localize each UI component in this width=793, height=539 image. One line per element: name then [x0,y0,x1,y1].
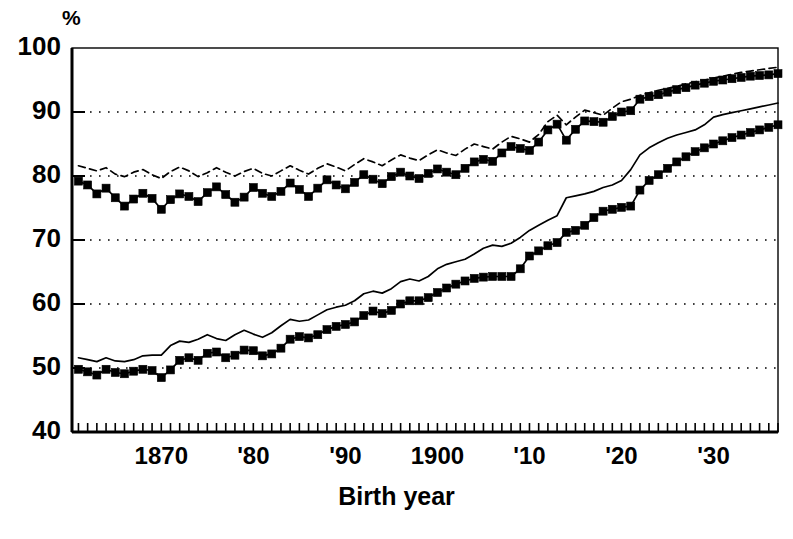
series-upper-squares [74,70,782,214]
x-tick-label-1930: '30 [697,444,729,468]
y-tick-label-40: 40 [0,417,61,443]
x-tick-label-1920: '20 [605,444,637,468]
x-tick-label-1900: 1900 [411,444,464,468]
x-tick-label-1910: '10 [513,444,545,468]
y-tick-label-80: 80 [0,161,61,187]
gridlines-group [72,112,778,368]
chart-figure: % 405060708090100 1870'80'901900'10'20'3… [0,0,793,539]
chart-plot-area [0,0,793,539]
x-tick-label-1870: 1870 [135,444,188,468]
y-tick-label-50: 50 [0,353,61,379]
y-tick-label-100: 100 [0,33,61,59]
series-lower-solid [78,103,778,362]
y-tick-label-90: 90 [0,97,61,123]
y-tick-label-60: 60 [0,289,61,315]
x-tick-label-1880: '80 [237,444,269,468]
x-tick-label-1890: '90 [329,444,361,468]
plot-frame [72,48,778,432]
x-axis-title: Birth year [0,482,793,511]
data-series-group [74,67,782,381]
y-tick-label-70: 70 [0,225,61,251]
y-axis-major-ticks [72,112,85,432]
series-lower-squares [74,121,782,382]
